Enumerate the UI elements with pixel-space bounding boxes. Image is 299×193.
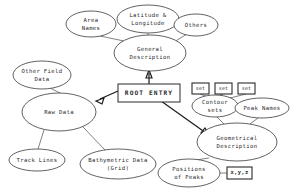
root-to-raw-data-head [96,98,104,104]
node-set-box-3-label: set [242,85,252,91]
node-track-lines-label: Track Lines [17,157,58,163]
root-to-raw-data-shaft [100,91,118,99]
node-lat-long-label: Latitude &Longitude [129,12,166,26]
node-geometrical-label: GeometricalDescription [217,135,258,149]
node-others-label: Others [185,22,207,28]
root-to-raw-data [96,91,118,104]
node-set-box-1-label: set [196,85,206,91]
diagram-canvas-container: AreaNamesLatitude &LongitudeOthersGenera… [0,0,299,193]
node-xyz-box-label: x,y,z [230,169,248,176]
node-raw-data-label: Raw Data [44,109,74,115]
area-names-to-general-description [100,36,124,41]
raw-data-to-track-lines [38,130,44,149]
peak-names-to-geometrical [250,118,258,124]
node-set-box-2-label: set [219,85,229,91]
entity-relationship-diagram: AreaNamesLatitude &LongitudeOthersGenera… [0,0,299,193]
raw-data-to-bathymetric [83,127,105,150]
node-root-entry-label: ROOT ENTRY [125,89,173,96]
node-positions-peaks-label: Positionsof Peaks [172,166,205,179]
node-peak-names-label: Peak Names [243,105,280,111]
node-area-names-label: AreaNames [82,17,101,30]
root-to-general-description [146,70,152,84]
contour-sets-to-geometrical [217,117,224,124]
